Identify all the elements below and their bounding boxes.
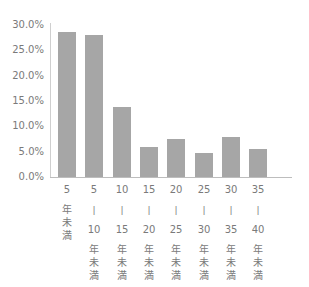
x-tick-label-line: | xyxy=(190,204,218,224)
x-tick-label-line: 20 xyxy=(135,224,163,244)
x-tick-label-line: 40 xyxy=(244,224,272,244)
bar xyxy=(195,153,213,177)
x-tick-label-line: 20 xyxy=(162,184,190,204)
x-tick-label-line: | xyxy=(162,204,190,224)
x-tick-label-line: 年 xyxy=(108,244,136,257)
bar-chart: 0.0%5.0%10.0%15.0%20.0%25.0%30.0% 5年未満5|… xyxy=(0,0,309,287)
x-tick-label-line: 35 xyxy=(217,224,245,244)
x-tick-label-line: 未 xyxy=(190,257,218,270)
x-tick-label-line: 年 xyxy=(80,244,108,257)
bar xyxy=(222,137,240,177)
x-tick-label-line: 未 xyxy=(162,257,190,270)
x-tick-label-line: 10 xyxy=(108,184,136,204)
bar xyxy=(167,139,185,177)
x-tick-label: 25|30年未満 xyxy=(190,184,218,283)
x-axis-line xyxy=(50,177,292,178)
x-tick-label-line: 未 xyxy=(244,257,272,270)
y-axis-line xyxy=(50,23,51,178)
x-tick-label-line: 満 xyxy=(108,270,136,283)
y-tick-label: 10.0% xyxy=(0,120,44,132)
y-tick-label: 25.0% xyxy=(0,44,44,56)
x-tick-label-line: 満 xyxy=(135,270,163,283)
x-tick-label-line: 年 xyxy=(217,244,245,257)
x-tick-label: 35|40年未満 xyxy=(244,184,272,283)
x-tick-label-line: 25 xyxy=(190,184,218,204)
x-tick-label-line: | xyxy=(108,204,136,224)
x-tick-label-line: 15 xyxy=(135,184,163,204)
x-tick-label-line: 満 xyxy=(244,270,272,283)
y-tick-label: 0.0% xyxy=(0,171,44,183)
x-tick-label-line: 15 xyxy=(108,224,136,244)
x-tick-label-line: 30 xyxy=(217,184,245,204)
x-tick-label-line: 未 xyxy=(53,217,81,230)
x-tick-label-line: 未 xyxy=(135,257,163,270)
bar xyxy=(113,107,131,177)
bar xyxy=(140,147,158,177)
x-tick-label-line: 未 xyxy=(108,257,136,270)
x-tick-label-line: 30 xyxy=(190,224,218,244)
x-tick-label: 20|25年未満 xyxy=(162,184,190,283)
x-tick-label: 5年未満 xyxy=(53,184,81,243)
x-tick-label-line: | xyxy=(244,204,272,224)
bar xyxy=(249,149,267,177)
x-tick-label-line: 年 xyxy=(135,244,163,257)
x-tick-label-line: | xyxy=(80,204,108,224)
x-tick-label: 15|20年未満 xyxy=(135,184,163,283)
x-tick-label-line: 満 xyxy=(80,270,108,283)
x-tick-label-line: 未 xyxy=(217,257,245,270)
x-tick-label: 5|10年未満 xyxy=(80,184,108,283)
bar xyxy=(85,35,103,177)
x-tick-label-line: 10 xyxy=(80,224,108,244)
y-tick-label: 5.0% xyxy=(0,146,44,158)
x-tick-label-line: 満 xyxy=(162,270,190,283)
x-tick-label-line: 満 xyxy=(217,270,245,283)
x-tick-label-line: 年 xyxy=(53,204,81,217)
x-tick-label-line: 未 xyxy=(80,257,108,270)
x-tick-label-line: 年 xyxy=(190,244,218,257)
bar xyxy=(58,32,76,177)
x-tick-label-line: 35 xyxy=(244,184,272,204)
x-tick-label-line: 5 xyxy=(53,184,81,204)
x-tick-label: 10|15年未満 xyxy=(108,184,136,283)
y-tick-label: 15.0% xyxy=(0,95,44,107)
x-tick-label-line: | xyxy=(135,204,163,224)
y-tick-label: 20.0% xyxy=(0,70,44,82)
x-tick-label-line: 年 xyxy=(244,244,272,257)
x-tick-label-line: 満 xyxy=(53,230,81,243)
x-tick-label-line: 25 xyxy=(162,224,190,244)
x-tick-label-line: 年 xyxy=(162,244,190,257)
x-tick-label-line: 満 xyxy=(190,270,218,283)
x-tick-label: 30|35年未満 xyxy=(217,184,245,283)
x-tick-label-line: | xyxy=(217,204,245,224)
y-tick-label: 30.0% xyxy=(0,19,44,31)
x-tick-label-line: 5 xyxy=(80,184,108,204)
